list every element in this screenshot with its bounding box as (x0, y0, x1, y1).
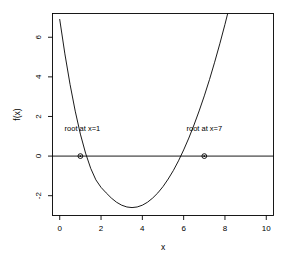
plot-canvas: 0246810-20246xf(x)root at x=1root at x=7 (0, 0, 288, 268)
point-center-root-1 (79, 155, 81, 157)
y-tick-label-3: 4 (35, 74, 44, 79)
x-axis-title: x (161, 242, 166, 252)
plot-panel-border (53, 14, 274, 216)
x-tick-label-1: 2 (99, 224, 104, 233)
x-tick-label-4: 8 (223, 224, 228, 233)
y-tick-label-1: 0 (35, 153, 44, 158)
chart-figure: 0246810-20246xf(x)root at x=1root at x=7 (0, 0, 288, 268)
x-tick-label-5: 10 (262, 224, 271, 233)
series-f(x) (60, 0, 267, 208)
root-1-label: root at x=1 (65, 124, 101, 133)
x-tick-label-3: 6 (181, 224, 186, 233)
root-7-label: root at x=7 (186, 124, 222, 133)
x-tick-label-0: 0 (58, 224, 63, 233)
y-tick-label-4: 6 (35, 34, 44, 39)
y-tick-label-2: 2 (35, 114, 44, 119)
x-tick-label-2: 4 (140, 224, 145, 233)
y-axis-title: f(x) (12, 108, 22, 120)
point-center-root-7 (203, 155, 205, 157)
y-tick-label-0: -2 (35, 192, 44, 200)
